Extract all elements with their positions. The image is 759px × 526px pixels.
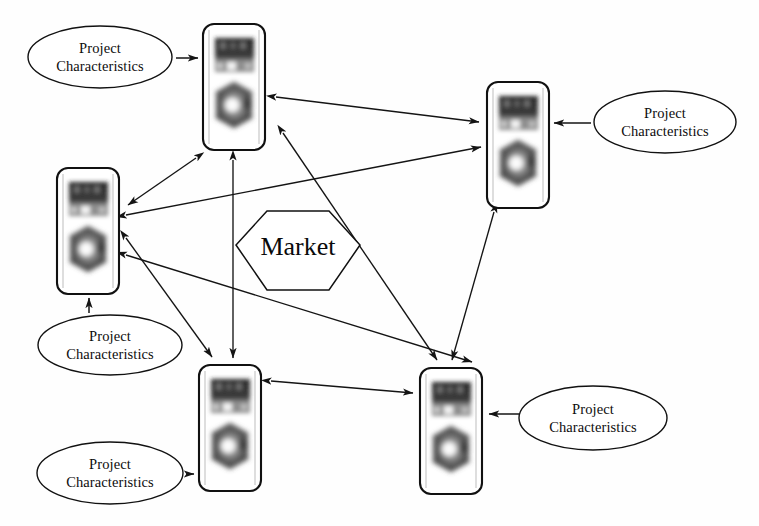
ellipse-pc-bottom-right[interactable]: Project Characteristics <box>519 386 667 450</box>
ellipse-label-line1: Project <box>89 456 131 472</box>
ellipse-pc-top-right[interactable]: Project Characteristics <box>594 91 736 153</box>
ellipse-shape <box>37 442 183 504</box>
ellipse-label-line2: Characteristics <box>66 346 154 362</box>
ellipse-label-line1: Project <box>644 105 686 121</box>
diagram-canvas: Market Project Characte <box>0 0 759 526</box>
ellipse-label-line2: Characteristics <box>549 419 637 435</box>
ellipse-shape <box>594 91 736 153</box>
ellipse-pc-top-left[interactable]: Project Characteristics <box>28 26 172 88</box>
market-hexagon: Market <box>236 211 360 290</box>
ellipse-label-line1: Project <box>89 328 131 344</box>
project-node-left-mid[interactable] <box>57 168 119 294</box>
ellipse-label-line1: Project <box>79 40 121 56</box>
ellipse-shape <box>38 315 182 375</box>
project-node-bottom-left[interactable] <box>199 365 261 491</box>
project-node-bottom-right[interactable] <box>420 368 482 494</box>
link-bottomleft-bottomright <box>271 381 413 393</box>
link-topright-bottomright <box>452 212 494 360</box>
ellipse-label-line1: Project <box>572 401 614 417</box>
link-topleft-topright <box>276 97 479 122</box>
network-diagram: Market Project Characte <box>0 0 759 526</box>
project-node-top-left[interactable] <box>203 24 265 150</box>
ellipse-pc-left-mid[interactable]: Project Characteristics <box>38 315 182 375</box>
ellipse-pc-bottom-left[interactable]: Project Characteristics <box>37 442 183 504</box>
ellipse-shape <box>519 386 667 450</box>
ellipse-label-line2: Characteristics <box>66 474 154 490</box>
link-leftmid-topright <box>126 147 481 215</box>
ellipse-label-line2: Characteristics <box>621 123 709 139</box>
link-topleft-leftmid <box>128 158 196 205</box>
project-node-top-right[interactable] <box>487 82 549 208</box>
ellipse-shape <box>28 26 172 88</box>
ellipse-label-line2: Characteristics <box>56 58 144 74</box>
market-label: Market <box>260 232 336 261</box>
